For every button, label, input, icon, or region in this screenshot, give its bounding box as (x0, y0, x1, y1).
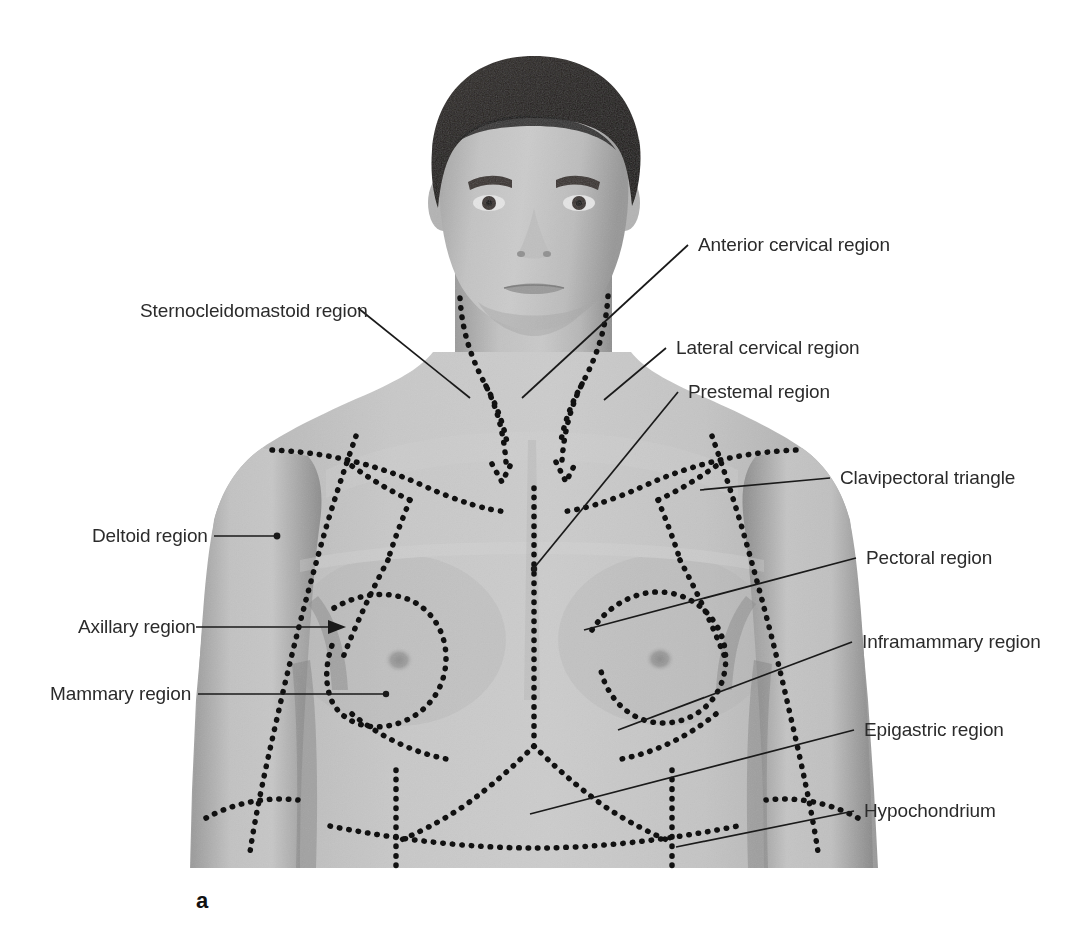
label-epigastric-region: Epigastric region (864, 719, 1004, 741)
label-lateral-cervical-region: Lateral cervical region (676, 337, 860, 359)
label-axillary-region: Axillary region (78, 616, 196, 638)
areola-right (645, 646, 675, 672)
label-deltoid-region: Deltoid region (92, 525, 208, 547)
label-prestemal-region: Prestemal region (688, 381, 830, 403)
panel-letter-a: a (196, 888, 208, 914)
label-inframammary-region: Inframammary region (862, 631, 1041, 653)
areola-left (384, 647, 414, 673)
label-hypochondrium: Hypochondrium (864, 800, 996, 822)
label-sternocleidomastoid-region: Sternocleidomastoid region (140, 300, 368, 322)
figure-page: Sternocleidomastoid region Deltoid regio… (0, 0, 1068, 944)
eye-left (473, 195, 505, 211)
eye-right (563, 195, 595, 211)
label-clavipectoral-triangle: Clavipectoral triangle (840, 467, 1015, 489)
label-mammary-region: Mammary region (50, 683, 191, 705)
label-anterior-cervical-region: Anterior cervical region (698, 234, 890, 256)
label-pectoral-region: Pectoral region (866, 547, 992, 569)
subject-photograph (180, 56, 888, 880)
